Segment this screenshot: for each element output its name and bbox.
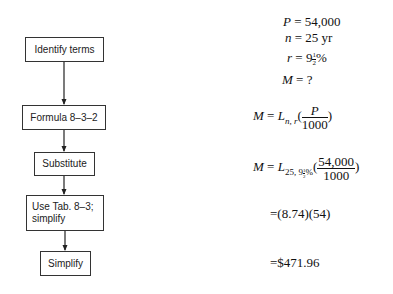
subscript: n, r [285, 116, 298, 126]
term-P: P = 54,000 [283, 14, 341, 30]
value: ? [307, 72, 313, 87]
eq: = [267, 159, 274, 174]
eq: = [296, 72, 303, 87]
step-use-table: Use Tab. 8–3; simplify [26, 195, 104, 231]
term-r: r = 912% [287, 50, 327, 67]
pct: % [305, 167, 313, 177]
step-label: Substitute [42, 158, 86, 170]
den: 1000 [302, 118, 328, 131]
eq: = [295, 30, 302, 45]
table-step-line: =(8.74)(54) [270, 206, 330, 222]
var: r [287, 50, 292, 65]
fraction: P1000 [302, 104, 328, 131]
var: n [285, 30, 292, 45]
term-n: n = 25 yr [285, 30, 332, 46]
L: L [278, 159, 285, 174]
step-formula: Formula 8–3–2 [22, 105, 106, 130]
step-label-line1: Use Tab. 8–3; [32, 201, 94, 213]
step-substitute: Substitute [34, 152, 95, 176]
var: M [282, 72, 293, 87]
step-label-line2: simplify [32, 213, 94, 225]
step-label: Simplify [48, 258, 83, 270]
sub-text: 25, 9 [285, 167, 303, 177]
result-line: =$471.96 [270, 255, 320, 271]
step-label-wrap: Use Tab. 8–3; simplify [32, 201, 94, 225]
step-label: Identify terms [34, 44, 94, 56]
eq: = [267, 108, 274, 123]
step-identify-terms: Identify terms [25, 37, 104, 62]
L: L [278, 108, 285, 123]
unit: % [316, 50, 327, 65]
value: 25 yr [305, 30, 332, 45]
num: 54,000 [317, 155, 355, 169]
den: 1000 [317, 169, 355, 182]
fraction: 54,0001000 [317, 155, 355, 182]
substitute-line: M = L25, 912%(54,0001000) [253, 155, 359, 182]
num: P [302, 104, 328, 118]
lhs: M [253, 159, 264, 174]
formula-line: M = Ln, r(P1000) [253, 104, 332, 131]
term-M: M = ? [282, 72, 312, 88]
var: P [283, 14, 291, 29]
eq: = [295, 50, 302, 65]
value: 54,000 [305, 14, 341, 29]
lhs: M [253, 108, 264, 123]
eq: = [294, 14, 301, 29]
step-simplify: Simplify [40, 251, 91, 276]
subscript: 25, 912% [285, 167, 313, 177]
step-label: Formula 8–3–2 [30, 112, 97, 124]
